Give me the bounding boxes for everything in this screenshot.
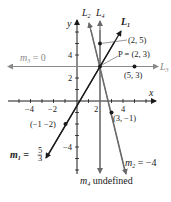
line-L4-label: L4 [95, 7, 105, 19]
x-tick-neg2: −2 [48, 104, 57, 114]
x-tick-2: 2 [94, 104, 98, 114]
x-tick-neg4: −4 [25, 104, 35, 114]
x-axis: x −4 −2 2 4 [8, 87, 156, 114]
line-L1: L1 m1 = 5 3 [10, 16, 130, 163]
x-axis-label: x [148, 87, 154, 98]
point-P-label: P = (2, 3) [118, 49, 150, 59]
slope-m3-label: m3 = 0 [20, 52, 46, 64]
point-neg1-neg2 [64, 122, 68, 126]
slope-lines-diagram: x −4 −2 2 4 y 4 2 −4 L3 m3 = 0 [0, 0, 171, 202]
y-tick-2: 2 [68, 73, 72, 83]
point-neg1-neg2-label: (−1 −2) [30, 119, 56, 129]
slope-m1-label: m1 = [10, 149, 29, 161]
point-5-3-label: (5, 3) [124, 70, 143, 80]
slope-m1-denominator: 3 [38, 153, 42, 163]
point-5-3 [133, 65, 137, 69]
line-L2-label: L2 [81, 7, 91, 19]
slope-m2-label: m2 = −4 [125, 157, 157, 169]
line-L1-label: L1 [120, 16, 130, 28]
y-axis-label: y [66, 18, 72, 29]
points: (2, 5) P = (2, 3) (5, 3) (3, −1) (−1 −2) [30, 35, 150, 129]
point-2-5-label: (2, 5) [128, 35, 147, 45]
y-tick-4: 4 [68, 50, 73, 60]
y-axis: y 4 2 −4 [63, 18, 79, 174]
point-3-neg1-label: (3, −1) [113, 113, 136, 123]
line-L2: L2 m2 = −4 [81, 7, 157, 174]
y-tick-neg4: −4 [63, 142, 73, 152]
line-L3-label: L3 [159, 61, 169, 73]
slope-m4-label: m4 undefined [80, 175, 133, 187]
